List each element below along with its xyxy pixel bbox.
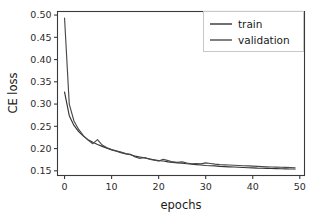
chart-legend[interactable]: train validation <box>204 12 304 52</box>
x-tick-label: 40 <box>247 181 259 192</box>
x-tick-label: 0 <box>62 181 68 192</box>
x-tick-label: 10 <box>106 181 118 192</box>
x-axis-label: epochs <box>160 198 201 212</box>
y-axis-label: CE loss <box>6 72 20 113</box>
y-tick-label: 0.35 <box>30 76 51 87</box>
line-chart: 01020304050 0.150.200.250.300.350.400.45… <box>0 0 324 218</box>
y-tick-label: 0.20 <box>30 143 51 154</box>
y-tick-label: 0.45 <box>30 32 51 43</box>
x-tick-label: 50 <box>294 181 306 192</box>
legend-label-train: train <box>238 18 262 30</box>
y-tick-label: 0.50 <box>30 9 51 20</box>
y-tick-label: 0.40 <box>30 54 51 65</box>
y-tick-label: 0.15 <box>30 165 51 176</box>
legend-label-validation: validation <box>238 34 290 46</box>
y-tick-label: 0.30 <box>30 98 51 109</box>
x-tick-label: 20 <box>153 181 165 192</box>
x-tick-label: 30 <box>200 181 212 192</box>
chart-figure: 01020304050 0.150.200.250.300.350.400.45… <box>0 0 324 218</box>
y-tick-label: 0.25 <box>30 121 51 132</box>
